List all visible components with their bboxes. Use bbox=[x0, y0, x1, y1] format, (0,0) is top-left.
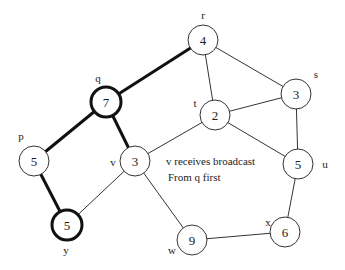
node-r: 4 r bbox=[188, 9, 218, 55]
node-r-value: 4 bbox=[200, 33, 207, 48]
node-u-label: u bbox=[322, 158, 328, 170]
node-t-value: 2 bbox=[212, 108, 219, 123]
node-p-label: p bbox=[18, 130, 24, 142]
node-q-label: q bbox=[95, 72, 101, 84]
node-q: 7 q bbox=[91, 72, 121, 117]
node-r-label: r bbox=[201, 9, 205, 21]
node-y-value: 5 bbox=[64, 218, 71, 233]
annotation-line-2: From q first bbox=[168, 171, 221, 183]
edge-r-s bbox=[203, 40, 296, 94]
node-s-label: s bbox=[314, 68, 318, 80]
node-x-label: x bbox=[265, 216, 271, 228]
node-s-value: 3 bbox=[293, 87, 300, 102]
node-s: 3 s bbox=[281, 68, 318, 109]
edge-q-r bbox=[106, 40, 203, 102]
node-v: 3 v bbox=[110, 146, 150, 176]
node-y-label: y bbox=[63, 244, 69, 256]
node-w-label: w bbox=[168, 244, 176, 256]
node-u-value: 5 bbox=[295, 157, 302, 172]
node-u: 5 u bbox=[283, 149, 328, 179]
node-x: 6 x bbox=[265, 216, 300, 247]
node-v-value: 3 bbox=[132, 154, 139, 169]
node-y: 5 y bbox=[52, 210, 82, 256]
node-v-label: v bbox=[110, 156, 116, 168]
node-w-value: 9 bbox=[189, 233, 196, 248]
annotation-line-1: v receives broadcast bbox=[166, 155, 255, 167]
broadcast-graph-diagram: 4 r 7 q 3 s 2 t 5 p 3 v 5 bbox=[0, 0, 345, 270]
node-x-value: 6 bbox=[282, 225, 289, 240]
graph-svg: 4 r 7 q 3 s 2 t 5 p 3 v 5 bbox=[0, 0, 345, 270]
node-p-value: 5 bbox=[31, 154, 38, 169]
node-t: 2 t bbox=[193, 97, 230, 130]
node-q-value: 7 bbox=[103, 95, 110, 110]
node-w: 9 w bbox=[168, 225, 207, 256]
node-t-label: t bbox=[193, 97, 196, 109]
node-p: 5 p bbox=[18, 130, 49, 176]
